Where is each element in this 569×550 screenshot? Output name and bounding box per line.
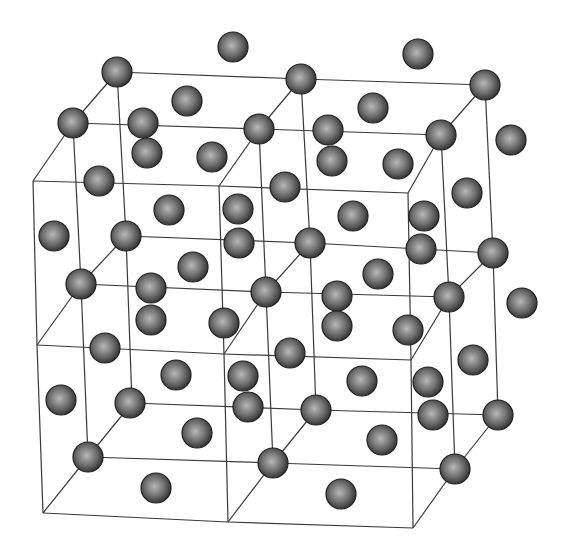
lattice-edge	[259, 129, 441, 135]
lattice-edge	[266, 292, 449, 297]
lattice-edge	[126, 236, 132, 403]
lattice-edge	[81, 284, 88, 457]
atom-sphere	[507, 288, 537, 318]
atom-sphere	[347, 366, 377, 396]
atom-sphere	[228, 361, 258, 391]
atom-sphere	[458, 345, 488, 375]
atom-sphere	[209, 308, 239, 338]
atom-sphere	[301, 395, 331, 425]
atom-sphere	[295, 228, 325, 258]
atom-sphere	[244, 114, 274, 144]
atom-sphere	[275, 338, 305, 368]
atom-sphere	[322, 311, 352, 341]
lattice-edge	[449, 297, 455, 469]
atom-sphere	[136, 305, 166, 335]
atom-sphere	[483, 400, 513, 430]
lattice-atoms	[39, 32, 537, 509]
atom-sphere	[115, 388, 145, 418]
atom-sphere	[478, 238, 508, 268]
lattice-edge	[81, 284, 266, 292]
atom-sphere	[440, 454, 470, 484]
atom-sphere	[66, 269, 96, 299]
atom-sphere	[136, 273, 166, 303]
atom-sphere	[154, 195, 184, 225]
lattice-edge	[316, 410, 498, 415]
lattice-edge	[132, 403, 316, 410]
lattice-edge	[37, 345, 43, 513]
lattice-edge	[224, 354, 228, 522]
lattice-edge	[411, 360, 413, 528]
lattice-edge	[126, 236, 310, 243]
atom-sphere	[233, 392, 263, 422]
atom-sphere	[418, 400, 448, 430]
atom-sphere	[218, 32, 248, 62]
crystal-lattice-diagram	[0, 0, 569, 550]
lattice-edge	[117, 72, 126, 236]
lattice-edge	[73, 123, 259, 129]
atom-sphere	[132, 138, 162, 168]
atom-sphere	[403, 39, 433, 69]
atom-sphere	[393, 315, 423, 345]
lattice-edge	[88, 457, 273, 463]
atom-sphere	[73, 442, 103, 472]
atom-sphere	[258, 448, 288, 478]
atom-sphere	[313, 115, 343, 145]
atom-sphere	[470, 70, 500, 100]
lattice-edge	[273, 463, 455, 469]
atom-sphere	[197, 142, 227, 172]
atom-sphere	[409, 201, 439, 231]
lattice-canvas	[0, 0, 569, 550]
atom-sphere	[317, 146, 347, 176]
lattice-edge	[266, 292, 273, 463]
atom-sphere	[223, 194, 253, 224]
atom-sphere	[128, 108, 158, 138]
atom-sphere	[363, 259, 393, 289]
lattice-edge	[33, 181, 37, 345]
atom-sphere	[182, 418, 212, 448]
atom-sphere	[224, 228, 254, 258]
atom-sphere	[102, 57, 132, 87]
atom-sphere	[161, 360, 191, 390]
atom-sphere	[286, 64, 316, 94]
lattice-edge	[441, 135, 449, 297]
atom-sphere	[358, 93, 388, 123]
atom-sphere	[84, 166, 114, 196]
lattice-edge	[259, 129, 266, 292]
lattice-edge	[310, 243, 316, 410]
atom-sphere	[452, 178, 482, 208]
lattice-edge	[117, 72, 301, 79]
lattice-edge	[301, 79, 310, 243]
lattice-edge	[485, 85, 493, 253]
lattice-edge	[73, 123, 81, 284]
atom-sphere	[251, 277, 281, 307]
lattice-edge	[224, 354, 411, 360]
lattice-edge	[33, 181, 219, 186]
atom-sphere	[58, 108, 88, 138]
atom-sphere	[322, 281, 352, 311]
atom-sphere	[383, 149, 413, 179]
atom-sphere	[141, 473, 171, 503]
lattice-edge	[43, 513, 228, 522]
atom-sphere	[178, 252, 208, 282]
atom-sphere	[270, 172, 300, 202]
atom-sphere	[338, 201, 368, 231]
lattice-edge	[228, 522, 413, 528]
lattice-edge	[310, 243, 493, 253]
lattice-edge	[219, 186, 408, 193]
atom-sphere	[90, 333, 120, 363]
atom-sphere	[406, 234, 436, 264]
atom-sphere	[434, 282, 464, 312]
atom-sphere	[39, 221, 69, 251]
lattice-edge	[301, 79, 485, 85]
atom-sphere	[326, 479, 356, 509]
atom-sphere	[413, 367, 443, 397]
atom-sphere	[172, 86, 202, 116]
atom-sphere	[111, 221, 141, 251]
atom-sphere	[496, 125, 526, 155]
lattice-edge	[493, 253, 498, 415]
atom-sphere	[426, 120, 456, 150]
atom-sphere	[367, 425, 397, 455]
atom-sphere	[46, 385, 76, 415]
